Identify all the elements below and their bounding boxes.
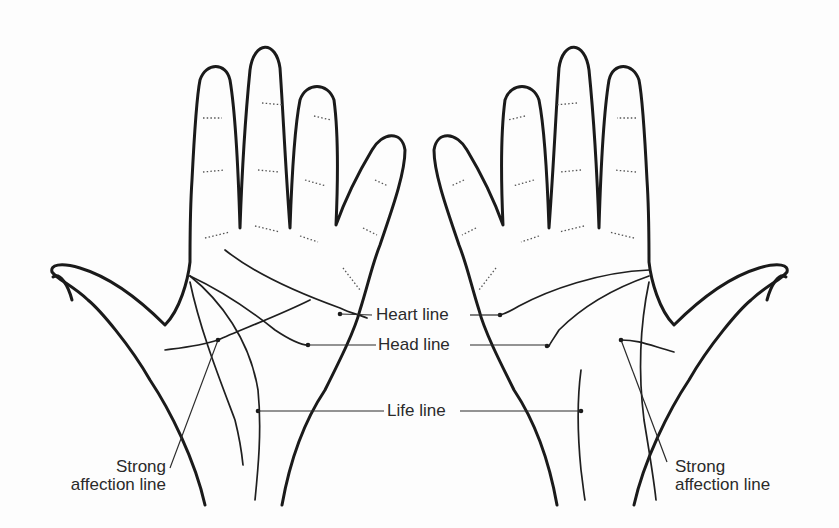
right-life-line — [578, 370, 585, 500]
left-head-line — [190, 276, 308, 345]
right-hand — [434, 47, 787, 505]
right-fate-line — [641, 282, 656, 500]
left-fate-line — [165, 300, 310, 350]
right-affection-label-line2: affection line — [675, 476, 770, 494]
left-hand — [52, 47, 405, 505]
left-hand-outline — [52, 47, 405, 505]
left-affection-label-line1: Strong — [102, 458, 166, 476]
left-affection-label-line2: affection line — [50, 476, 166, 494]
left-affection-leader — [170, 340, 218, 468]
left-affection-branch — [190, 282, 243, 465]
heart-line-label: Heart line — [376, 306, 449, 323]
right-affection-label-line1: Strong — [675, 458, 725, 476]
hands-illustration — [0, 0, 839, 528]
heart-line-leader-left — [340, 314, 372, 315]
left-thumbnail — [53, 276, 72, 300]
life-line-label: Life line — [387, 402, 446, 419]
right-hand-outline — [434, 47, 787, 505]
right-heart-line — [500, 270, 649, 315]
palm-lines-diagram: Heart line Head line Life line Strong af… — [0, 0, 839, 528]
head-line-label: Head line — [378, 336, 450, 353]
right-affection-leader — [621, 340, 667, 462]
